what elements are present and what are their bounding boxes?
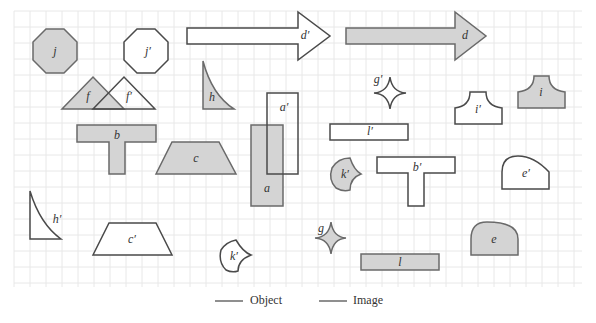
shape-f: f <box>62 77 124 109</box>
shape-c: c <box>156 142 236 174</box>
shape-d: d <box>346 12 486 60</box>
shape-c-prime: c′ <box>93 223 172 255</box>
shape-g: g <box>315 221 346 254</box>
svg-text:c′: c′ <box>128 232 136 246</box>
svg-text:b′: b′ <box>413 160 422 174</box>
svg-text:a: a <box>264 181 270 195</box>
shape-k-prime-object: k′ <box>331 158 361 191</box>
svg-text:g: g <box>318 221 324 235</box>
shape-e: e <box>471 222 518 255</box>
svg-text:e: e <box>491 232 497 246</box>
shape-l: l <box>361 254 439 270</box>
shape-d-prime: d′ <box>187 12 330 60</box>
svg-text:g′: g′ <box>374 72 383 86</box>
legend-image: Image <box>319 293 383 307</box>
svg-text:k′: k′ <box>230 249 238 263</box>
svg-text:b: b <box>114 128 120 142</box>
svg-text:i′: i′ <box>475 102 481 116</box>
shape-j: j <box>33 29 77 73</box>
shape-h: h <box>203 61 234 109</box>
shape-b-prime: b′ <box>377 157 455 206</box>
legend-image-label: Image <box>353 293 383 307</box>
legend-object-label: Object <box>250 293 283 307</box>
svg-text:c: c <box>193 151 199 165</box>
svg-text:h′: h′ <box>53 212 62 226</box>
shape-g-prime: g′ <box>374 72 406 109</box>
transformations-diagram: j j′ d′ d f f′ h g′ i′ i <box>0 0 596 323</box>
svg-text:a′: a′ <box>280 100 289 114</box>
svg-text:k′: k′ <box>341 167 349 181</box>
shape-j-prime: j′ <box>124 29 168 73</box>
svg-text:e′: e′ <box>522 166 530 180</box>
shape-l-prime: l′ <box>330 124 408 140</box>
svg-text:d′: d′ <box>301 28 310 42</box>
svg-text:h: h <box>209 90 215 104</box>
svg-text:l′: l′ <box>367 124 373 138</box>
svg-text:i: i <box>539 85 542 99</box>
shape-b: b <box>77 125 156 174</box>
legend: Object Image <box>215 293 383 307</box>
svg-text:j′: j′ <box>143 44 151 58</box>
svg-text:d: d <box>462 28 469 42</box>
legend-object: Object <box>215 293 283 307</box>
svg-text:f′: f′ <box>126 89 132 103</box>
